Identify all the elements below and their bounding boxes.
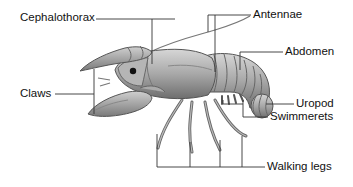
label-antennae: Antennae bbox=[253, 9, 302, 21]
label-cephalothorax: Cephalothorax bbox=[20, 12, 95, 24]
swimmerets-shape bbox=[222, 94, 243, 104]
label-walking-legs: Walking legs bbox=[267, 161, 332, 173]
crayfish-diagram: Cephalothorax Antennae Abdomen Claws Uro… bbox=[0, 0, 353, 187]
label-uropod: Uropod bbox=[296, 98, 334, 110]
label-swimmerets: Swimmerets bbox=[270, 111, 333, 123]
crayfish-illustration bbox=[0, 0, 353, 187]
label-claws: Claws bbox=[20, 88, 51, 100]
eye-icon bbox=[130, 68, 136, 74]
label-abdomen: Abdomen bbox=[285, 46, 334, 58]
